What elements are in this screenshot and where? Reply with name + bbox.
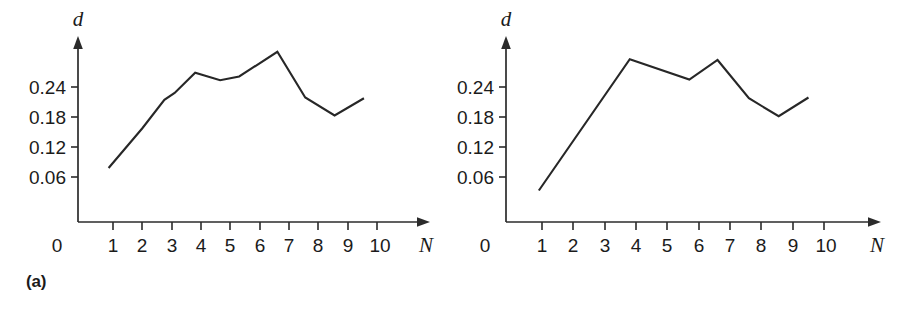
x-axis-title-a: N [418, 233, 434, 257]
y-tick-label-012: 0.12 [457, 137, 494, 158]
x-tick-label-10: 10 [815, 235, 836, 256]
x-tick-label-6: 6 [694, 235, 705, 256]
x-tick-label-4: 4 [631, 235, 642, 256]
y-axis-b [501, 36, 511, 222]
x-tick-label-1: 1 [537, 235, 548, 256]
x-tick-label-5: 5 [662, 235, 673, 256]
x-tick-label-3: 3 [600, 235, 611, 256]
chart-panel-b: 0.06 0.12 0.18 0.24 0 1 2 3 4 5 6 7 8 9 … [450, 0, 899, 315]
y-tick-marks-a [71, 87, 78, 177]
y-axis-arrow-icon [501, 36, 511, 49]
x-tick-label-1: 1 [108, 235, 119, 256]
x-tick-marks-b [542, 222, 824, 230]
y-tick-label-024: 0.24 [29, 77, 66, 98]
chart-panel-a: 0.06 0.12 0.18 0.24 0 1 2 3 4 5 6 7 8 9 … [0, 0, 449, 315]
origin-label-a: 0 [52, 235, 63, 256]
panel-a-caption: (a) [26, 272, 46, 292]
x-tick-label-2: 2 [137, 235, 148, 256]
x-tick-label-8: 8 [756, 235, 767, 256]
y-axis-arrow-icon [73, 36, 83, 49]
x-tick-label-9: 9 [788, 235, 799, 256]
x-tick-label-7: 7 [284, 235, 295, 256]
x-tick-label-3: 3 [167, 235, 178, 256]
x-tick-label-10: 10 [369, 235, 390, 256]
y-axis-a [73, 36, 83, 222]
x-tick-marks-a [113, 222, 377, 230]
y-tick-label-006: 0.06 [29, 167, 66, 188]
y-tick-marks-b [499, 87, 506, 177]
chart-a-svg: 0.06 0.12 0.18 0.24 0 1 2 3 4 5 6 7 8 9 … [0, 0, 449, 315]
x-axis-title-b: N [869, 233, 885, 257]
x-tick-label-5: 5 [225, 235, 236, 256]
x-tick-label-7: 7 [725, 235, 736, 256]
y-axis-title-a: d [73, 7, 84, 31]
data-series-line-b [539, 59, 809, 190]
y-tick-label-018: 0.18 [29, 107, 66, 128]
y-tick-label-018: 0.18 [457, 107, 494, 128]
x-tick-label-6: 6 [255, 235, 266, 256]
figure-container: 0.06 0.12 0.18 0.24 0 1 2 3 4 5 6 7 8 9 … [0, 0, 899, 315]
chart-b-svg: 0.06 0.12 0.18 0.24 0 1 2 3 4 5 6 7 8 9 … [450, 0, 899, 315]
x-axis-arrow-icon [417, 217, 430, 226]
data-series-line-a [109, 52, 364, 168]
y-tick-label-024: 0.24 [457, 77, 494, 98]
y-tick-label-012: 0.12 [29, 137, 66, 158]
x-tick-label-4: 4 [196, 235, 207, 256]
x-axis-arrow-icon [868, 217, 881, 226]
y-tick-label-006: 0.06 [457, 167, 494, 188]
x-tick-label-2: 2 [568, 235, 579, 256]
x-tick-label-9: 9 [343, 235, 354, 256]
origin-label-b: 0 [480, 235, 491, 256]
y-axis-title-b: d [501, 7, 512, 31]
x-tick-label-8: 8 [313, 235, 324, 256]
